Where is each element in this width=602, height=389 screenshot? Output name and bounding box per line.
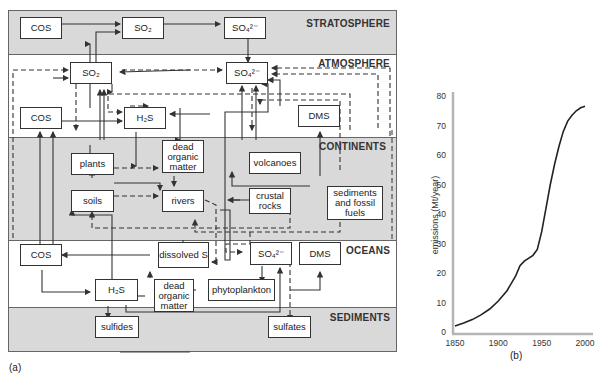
- svg-text:1950: 1950: [532, 338, 551, 348]
- svg-text:80: 80: [437, 91, 447, 101]
- svg-text:20: 20: [437, 268, 447, 278]
- svg-text:emissions (Mt/year): emissions (Mt/year): [430, 176, 440, 255]
- svg-text:1850: 1850: [446, 338, 465, 348]
- svg-text:0: 0: [441, 327, 446, 337]
- figure: STRATOSPHERE ATMOSPHERE CONTINENTS OCEAN…: [0, 0, 602, 389]
- svg-text:1900: 1900: [489, 338, 508, 348]
- panel-b-label: (b): [510, 350, 522, 361]
- svg-text:60: 60: [437, 150, 447, 160]
- svg-text:2000: 2000: [576, 338, 595, 348]
- svg-text:10: 10: [437, 298, 447, 308]
- emissions-chart: 01020304050607080 1850190019502000 emiss…: [0, 0, 602, 389]
- svg-text:70: 70: [437, 121, 447, 131]
